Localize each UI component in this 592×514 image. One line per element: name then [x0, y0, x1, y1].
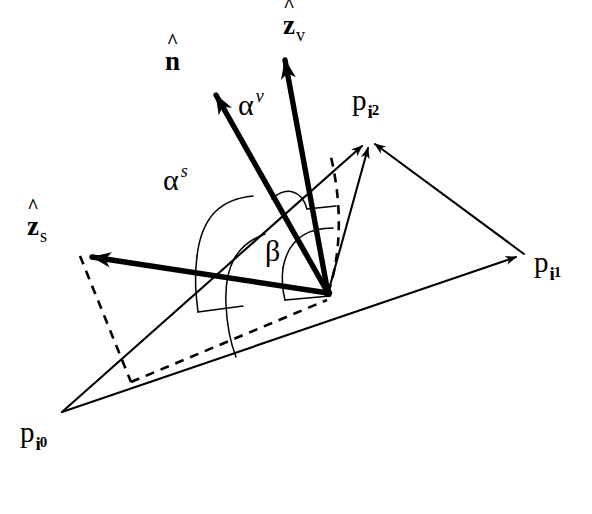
- edge-i1-to-i2: [375, 144, 524, 254]
- label-vertex-2: pi2: [352, 86, 379, 115]
- label-vertex-1: pi1: [534, 248, 561, 277]
- normal-symbol: ^n: [165, 48, 180, 75]
- vertex-0-letter: p: [20, 416, 35, 448]
- triangle-edges: [62, 144, 524, 412]
- beta-symbol: β: [265, 234, 280, 267]
- label-beta: β: [265, 236, 280, 266]
- alpha-s-symbol: α: [163, 163, 179, 196]
- label-vertex-0: pi0: [20, 418, 47, 447]
- alpha-s-arc-stub: [198, 306, 243, 312]
- ground-angle-arc: [226, 234, 265, 357]
- beta-arc-stub: [285, 296, 330, 300]
- label-source-vector: ^z s: [27, 213, 46, 240]
- alpha-s-arc: [197, 196, 253, 256]
- alpha-s-arc-tail: [195, 256, 198, 312]
- view-subscript: v: [296, 25, 305, 45]
- vertex-1-index: 1: [554, 264, 562, 280]
- source-symbol: ^z: [27, 213, 39, 240]
- label-normal-vector: ^n: [165, 48, 180, 75]
- label-alpha-s: αs: [163, 165, 186, 195]
- vertex-0-index: 0: [40, 434, 48, 450]
- view-symbol: ^z: [283, 12, 295, 39]
- unit-vectors: [92, 60, 328, 293]
- edge-i0-to-i1: [62, 257, 516, 412]
- alpha-v-superscript: v: [256, 86, 264, 106]
- vector-z-s-hat: [92, 257, 328, 293]
- diagram-canvas: ^n ^z v ^z s αv αs β pi0 pi1 pi2: [0, 0, 592, 514]
- geometry-svg: [0, 0, 592, 514]
- alpha-v-symbol: α: [238, 88, 254, 121]
- vertex-2-letter: p: [352, 84, 367, 116]
- hat-accent-normal: ^: [167, 31, 179, 51]
- label-alpha-v: αv: [238, 90, 262, 120]
- alpha-s-superscript: s: [181, 161, 188, 181]
- source-subscript: s: [40, 226, 47, 246]
- dashed-construction: [80, 153, 339, 382]
- hat-accent-view: ^: [283, 0, 295, 15]
- surface-point-dot: [324, 289, 332, 297]
- dashed-ground-projection: [131, 300, 327, 382]
- vertex-1-letter: p: [534, 246, 549, 278]
- vertex-2-index: 2: [372, 102, 380, 118]
- dashed-zs-drop: [80, 256, 131, 382]
- hat-accent-source: ^: [27, 196, 39, 216]
- label-view-vector: ^z v: [283, 12, 304, 39]
